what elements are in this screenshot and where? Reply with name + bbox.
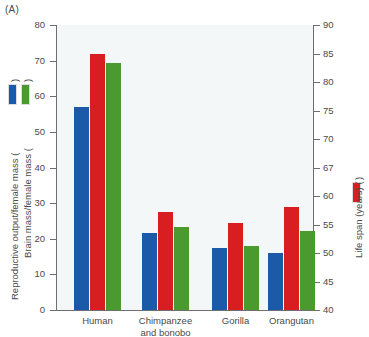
bar-blue (142, 233, 157, 310)
legend-swatch-brain-mass (21, 84, 30, 105)
left-tick-mark (50, 168, 57, 169)
bar-blue (74, 107, 89, 310)
bar-green (244, 246, 259, 310)
left-tick-mark (50, 96, 57, 97)
left-tick-mark (50, 274, 57, 275)
bar-blue (212, 248, 227, 310)
right-tick-label: 80 (323, 76, 349, 87)
right-tick-label: 45 (323, 276, 349, 287)
left-tick-mark (50, 203, 57, 204)
x-axis-line (56, 310, 314, 311)
right-axis-title-life-span-paren: ) (353, 177, 364, 180)
right-tick-label: 55 (323, 219, 349, 230)
bar-red (228, 223, 243, 310)
category-label-line: Orangutan (246, 315, 337, 327)
bar-group (74, 25, 121, 310)
left-axis-title-brain-mass-paren: ) (22, 79, 33, 82)
bar-green (106, 63, 121, 310)
bar-red (90, 54, 105, 310)
bar-red (284, 207, 299, 310)
right-tick-label: 40 (323, 304, 349, 315)
left-axis-title-reproductive-output: Reproductive output/female mass ( (9, 153, 20, 300)
left-tick-mark (50, 25, 57, 26)
right-tick-label: 50 (323, 247, 349, 258)
legend-swatch-reproductive-output (8, 84, 17, 105)
right-tick-label: 85 (323, 48, 349, 59)
left-tick-label: 10 (19, 268, 45, 279)
right-tick-mark (313, 310, 320, 311)
left-tick-mark (50, 132, 57, 133)
left-axis-title-brain-mass: Brain mass/female mass ( (22, 148, 33, 258)
category-label: Orangutan (246, 315, 337, 327)
left-tick-label: 70 (19, 55, 45, 66)
right-tick-label: 60 (323, 190, 349, 201)
left-axis-title-reproductive-output-paren: ) (9, 79, 20, 82)
right-tick-label: 67 (323, 162, 349, 173)
left-tick-label: 0 (19, 304, 45, 315)
panel-label: (A) (5, 4, 19, 15)
right-axis-title-life-span: Life span (years) ( (353, 181, 364, 258)
bar-green (174, 227, 189, 310)
bar-group (142, 25, 189, 310)
category-label-line: and bonobo (120, 327, 211, 337)
bar-red (158, 212, 173, 310)
bar-blue (268, 253, 283, 310)
bar-group (268, 25, 315, 310)
left-tick-label: 50 (19, 126, 45, 137)
right-tick-label: 75 (323, 105, 349, 116)
left-tick-mark (50, 310, 57, 311)
left-tick-mark (50, 61, 57, 62)
left-tick-mark (50, 239, 57, 240)
left-tick-label: 80 (19, 19, 45, 30)
bar-green (300, 231, 315, 310)
bar-group (212, 25, 259, 310)
right-tick-label: 70 (323, 133, 349, 144)
right-tick-label: 90 (323, 19, 349, 30)
